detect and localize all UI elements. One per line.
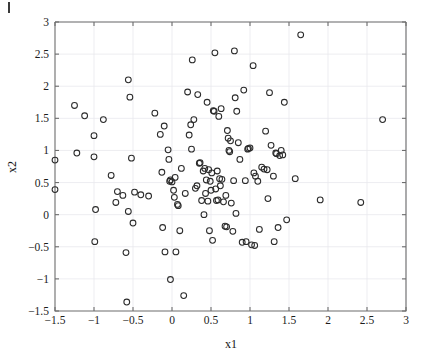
data-point-markers <box>52 32 385 305</box>
data-point <box>178 166 184 172</box>
scatter-plot-figure: −1.5−1−0.500.511.522.53 −1.5−1−0.500.511… <box>0 0 425 357</box>
data-point <box>172 175 178 181</box>
data-point <box>234 108 240 114</box>
data-point <box>292 176 298 182</box>
x-tick-label: 3 <box>403 314 409 326</box>
x-tick-label: 0 <box>169 314 175 326</box>
data-point <box>115 189 121 195</box>
data-point <box>275 225 281 231</box>
data-point <box>100 117 106 123</box>
data-point <box>165 147 171 153</box>
data-point <box>123 250 129 256</box>
data-point <box>173 249 179 255</box>
data-point <box>74 150 80 156</box>
data-point <box>113 200 119 206</box>
y-axis-title: x2 <box>5 161 19 173</box>
y-tick-label: 0.5 <box>35 177 50 189</box>
data-point <box>210 237 216 243</box>
data-point <box>93 207 99 213</box>
y-tick-label: −0.5 <box>28 241 49 253</box>
x-tick-label: 2 <box>325 314 331 326</box>
data-point <box>161 123 167 129</box>
data-point <box>218 106 224 112</box>
data-point <box>207 178 213 184</box>
data-point <box>243 239 249 245</box>
data-point <box>127 94 133 100</box>
data-point <box>224 128 230 134</box>
y-tick-label: 2 <box>43 80 49 92</box>
data-point <box>162 249 168 255</box>
data-point <box>268 142 274 148</box>
data-point <box>189 146 195 152</box>
tick-marks <box>55 22 406 311</box>
y-tick-label: 2.5 <box>35 48 50 60</box>
data-point <box>271 173 277 179</box>
data-point <box>168 277 174 283</box>
data-point <box>72 103 78 109</box>
x-tick-label: −1 <box>88 314 100 326</box>
data-point <box>125 77 131 83</box>
data-point <box>182 191 188 197</box>
data-point <box>281 99 287 105</box>
data-point <box>159 169 165 175</box>
data-point <box>92 239 98 245</box>
page-edge-artifact <box>8 2 10 13</box>
data-point <box>199 198 205 204</box>
data-point <box>241 87 247 93</box>
data-point <box>157 131 163 137</box>
data-point <box>181 293 187 299</box>
data-point <box>358 200 364 206</box>
data-point <box>177 228 183 234</box>
data-point <box>195 92 201 98</box>
data-point <box>214 168 220 174</box>
data-point <box>235 140 241 146</box>
data-point <box>191 117 197 123</box>
data-point <box>250 63 256 69</box>
data-point <box>185 89 191 95</box>
data-point <box>217 183 223 189</box>
data-point <box>223 193 229 199</box>
y-tick-label: −1.5 <box>28 305 49 317</box>
data-point <box>160 225 166 231</box>
y-tick-label: 0 <box>43 209 49 221</box>
data-point <box>146 193 152 199</box>
data-point <box>265 196 271 202</box>
data-point <box>120 193 126 199</box>
data-point <box>129 155 135 161</box>
data-point <box>317 197 323 203</box>
data-point <box>237 157 243 163</box>
data-point <box>212 50 218 56</box>
data-point <box>263 128 269 134</box>
data-point <box>232 95 238 101</box>
data-point <box>82 113 88 119</box>
data-point <box>203 177 209 183</box>
data-point <box>271 239 277 245</box>
grid-lines <box>55 22 406 311</box>
y-axis-tick-labels: −1.5−1−0.500.511.522.53 <box>28 16 49 317</box>
data-point <box>256 227 262 233</box>
x-tick-label: −0.5 <box>123 314 144 326</box>
data-point <box>298 32 304 38</box>
data-point <box>207 228 213 234</box>
scatter-plot-canvas: −1.5−1−0.500.511.522.53 −1.5−1−0.500.511… <box>0 0 425 357</box>
data-point <box>186 132 192 138</box>
data-point <box>233 210 239 216</box>
y-tick-label: −1 <box>37 273 49 285</box>
data-point <box>138 192 144 198</box>
data-point <box>380 117 386 123</box>
y-tick-label: 1.5 <box>35 112 50 124</box>
data-point <box>152 110 158 116</box>
y-tick-label: 3 <box>43 16 49 28</box>
x-tick-label: 0.5 <box>204 314 219 326</box>
data-point <box>125 209 131 215</box>
axis-frame <box>55 22 406 311</box>
x-axis-title: x1 <box>225 337 237 351</box>
data-point <box>255 178 261 184</box>
y-tick-label: 1 <box>43 144 49 156</box>
data-point <box>267 90 273 96</box>
data-point <box>204 99 210 105</box>
data-point <box>166 157 172 163</box>
data-point <box>132 189 138 195</box>
data-point <box>203 191 209 197</box>
data-point <box>221 199 227 205</box>
